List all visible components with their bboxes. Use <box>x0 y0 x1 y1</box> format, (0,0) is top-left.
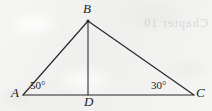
vertex-label-A: A <box>11 85 19 101</box>
vertex-label-B: B <box>83 1 91 17</box>
vertex-label-C: C <box>196 85 205 101</box>
segment-BC <box>88 21 194 95</box>
vertex-point-B <box>87 20 90 23</box>
angle-label-A: 50° <box>30 79 45 91</box>
triangle-svg <box>0 0 212 111</box>
angle-label-C: 30° <box>151 79 166 91</box>
vertex-label-D: D <box>84 94 93 110</box>
geometry-figure: Chapter 10 B A D C 50° 30° <box>0 0 212 111</box>
